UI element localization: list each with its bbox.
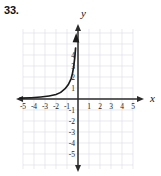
y-axis (75, 24, 81, 172)
y-tick--2: -2 (69, 117, 75, 126)
x-tick-5: 5 (131, 102, 135, 111)
x-tick-2: 2 (98, 102, 102, 111)
y-tick--1: -1 (69, 106, 75, 115)
y-axis-label: y (80, 7, 86, 19)
y-tick--4: -4 (69, 139, 75, 148)
coordinate-plane: y x -5 -4 -3 -2 -1 1 2 3 4 5 4 3 2 1 -1 … (0, 0, 161, 176)
x-axis-label: x (149, 92, 155, 104)
y-tick-3: 3 (71, 62, 75, 71)
x-tick--2: -2 (53, 102, 59, 111)
x-tick--5: -5 (20, 102, 26, 111)
y-tick--5: -5 (69, 150, 75, 159)
x-tick--4: -4 (31, 102, 37, 111)
x-tick--3: -3 (42, 102, 48, 111)
x-axis-right-arrow (137, 96, 144, 102)
y-axis-bottom-arrow (75, 165, 81, 172)
x-tick-1: 1 (87, 102, 91, 111)
y-tick-4: 4 (71, 51, 75, 60)
y-axis-top-arrow (75, 24, 81, 31)
y-tick-2: 2 (71, 73, 75, 82)
x-tick-3: 3 (109, 102, 113, 111)
x-tick-4: 4 (120, 102, 124, 111)
figure-container: 33. (0, 0, 161, 176)
y-tick--3: -3 (69, 128, 75, 137)
y-tick-1: 1 (71, 84, 75, 93)
